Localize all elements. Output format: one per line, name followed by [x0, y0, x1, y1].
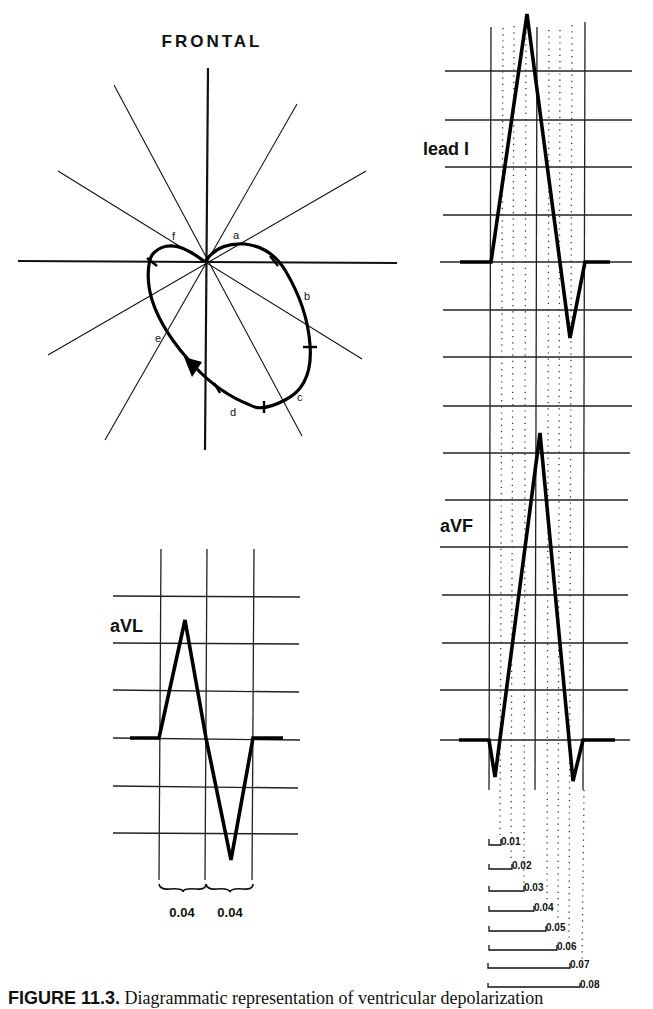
lead-I-label: lead I — [423, 139, 469, 159]
time-label-0.03: 0.03 — [524, 882, 544, 893]
segment-label-b: b — [304, 290, 310, 302]
time-label-0.01: 0.01 — [501, 836, 521, 847]
aVL-label: aVL — [110, 616, 143, 636]
caption-text: Diagrammatic representation of ventricul… — [125, 988, 544, 1008]
frontal-plane-diagram: FRONTAL a b c d e — [18, 32, 397, 450]
figure-caption: FIGURE 11.3. Diagrammatic representation… — [8, 988, 653, 1009]
lead-I-aVF-panel: lead I aVF — [423, 14, 632, 968]
lead-I-trace — [460, 14, 610, 338]
interval-brace-2 — [206, 884, 253, 892]
segment-label-f: f — [172, 230, 176, 242]
qrs-loop — [148, 244, 310, 408]
axis-oblique-2 — [105, 104, 297, 440]
aVL-vertical-gridlines — [159, 549, 254, 880]
loop-segment-labels: a b c d e f — [155, 229, 310, 418]
time-label-0.04: 0.04 — [534, 902, 554, 913]
time-label-0.05: 0.05 — [546, 922, 566, 933]
aVL-interval-label-1: 0.04 — [169, 905, 195, 920]
time-label-0.07: 0.07 — [570, 959, 590, 970]
aVL-interval-label-2: 0.04 — [217, 905, 243, 920]
time-label-0.02: 0.02 — [512, 860, 532, 871]
loop-direction-arrow-icon — [184, 357, 202, 377]
aVF-trace — [459, 433, 615, 781]
segment-label-e: e — [155, 332, 161, 344]
segment-label-c: c — [297, 391, 303, 403]
interval-brace-1 — [159, 884, 206, 892]
caption-label: FIGURE 11.3. — [8, 988, 120, 1008]
aVL-panel: aVL 0.04 0.04 — [110, 549, 300, 920]
segment-label-a: a — [233, 229, 240, 241]
time-label-0.06: 0.06 — [557, 941, 577, 952]
aVF-label: aVF — [440, 516, 473, 536]
segment-label-d: d — [230, 406, 236, 418]
frontal-title: FRONTAL — [162, 32, 263, 51]
